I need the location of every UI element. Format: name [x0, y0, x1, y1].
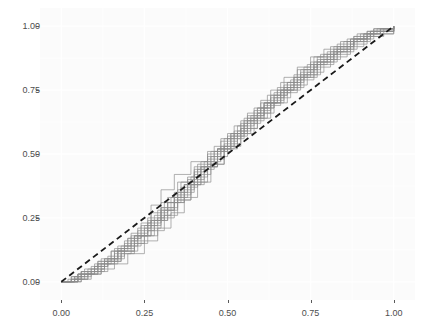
- y-tick-label: 0.25: [4, 213, 40, 223]
- y-tick-label: 0.75: [4, 85, 40, 95]
- y-tick-mark: [36, 26, 39, 27]
- y-tick-mark: [36, 218, 39, 219]
- y-tick-label: 1.00: [4, 21, 40, 31]
- x-tick-label: 0.50: [203, 308, 253, 318]
- plot-panel: [40, 8, 415, 300]
- y-axis: 0.000.250.500.751.00: [0, 0, 40, 336]
- ecdf-figure: 0.000.250.500.751.00 0.000.250.500.751.0…: [0, 0, 425, 336]
- y-tick-mark: [36, 154, 39, 155]
- x-tick-label: 0.00: [36, 308, 86, 318]
- x-tick-mark: [61, 300, 62, 303]
- x-tick-mark: [311, 300, 312, 303]
- x-tick-label: 1.00: [369, 308, 419, 318]
- x-tick-mark: [144, 300, 145, 303]
- x-tick-mark: [228, 300, 229, 303]
- x-tick-label: 0.75: [286, 308, 336, 318]
- y-tick-label: 0.50: [4, 149, 40, 159]
- y-tick-mark: [36, 282, 39, 283]
- x-tick-mark: [394, 300, 395, 303]
- y-tick-mark: [36, 90, 39, 91]
- plot-svg: [40, 8, 415, 300]
- x-tick-label: 0.25: [119, 308, 169, 318]
- y-tick-label: 0.00: [4, 277, 40, 287]
